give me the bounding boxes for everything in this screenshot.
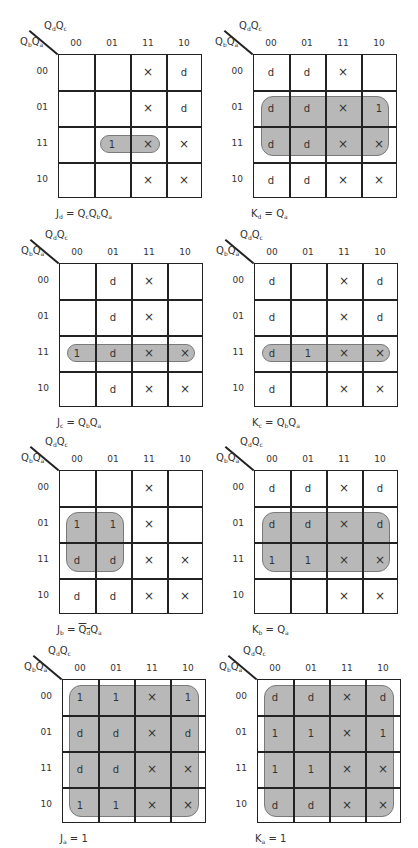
column-header: 11 — [134, 663, 170, 673]
row-header: 01 — [220, 311, 244, 321]
kmap-cell: 1 — [290, 542, 326, 578]
var-letter: Q — [57, 229, 65, 240]
kmap-cell: × — [325, 162, 361, 198]
var-subscript: c — [65, 234, 68, 241]
kmap-cell — [290, 371, 326, 407]
kmap-cell: d — [293, 679, 329, 715]
column-header: 00 — [253, 38, 289, 48]
kmap-cell: × — [134, 679, 170, 715]
var-letter: Q — [231, 661, 239, 672]
var-letter: Q — [60, 645, 68, 656]
term-letter: Q — [288, 417, 296, 428]
row-header: 00 — [220, 275, 244, 285]
row-header: 00 — [28, 691, 52, 701]
kmap-cell: d — [62, 751, 98, 787]
kmap-cell: d — [289, 162, 325, 198]
term-letter: Q — [277, 417, 285, 428]
kmap-cell: × — [326, 299, 362, 335]
kmap-cell — [290, 299, 326, 335]
kmap-cell — [290, 578, 326, 614]
kmap-cell: × — [134, 715, 170, 751]
kmap-cell: d — [253, 54, 289, 90]
column-header: 10 — [362, 454, 398, 464]
kmap-cell: × — [167, 371, 203, 407]
column-header: 11 — [131, 247, 167, 257]
row-header: 10 — [219, 174, 243, 184]
kmap-cell: d — [254, 299, 290, 335]
var-letter: Q — [216, 452, 224, 463]
kmap-cell: × — [131, 578, 167, 614]
kmap-cell: d — [95, 371, 131, 407]
var-letter: Q — [240, 436, 248, 447]
kmap-cell: × — [170, 787, 206, 823]
kmap-cell — [59, 470, 95, 506]
equation-lhs-subscript: c — [259, 422, 262, 429]
kmap-cell: 1 — [257, 751, 293, 787]
kmap-cell: d — [362, 299, 398, 335]
row-variables-label: QbQa — [219, 661, 242, 673]
kmap-cell: × — [362, 335, 398, 371]
kmap-cell: d — [289, 126, 325, 162]
kmap-cell: 1 — [59, 506, 95, 542]
kmap-cell — [361, 54, 397, 90]
column-variables-label: QdQc — [239, 20, 262, 32]
kmap-cell: × — [329, 751, 365, 787]
kmap-cell: × — [131, 542, 167, 578]
kmap-cell: d — [59, 542, 95, 578]
var-letter: Q — [228, 452, 236, 463]
column-header: 01 — [290, 247, 326, 257]
kmap-ka: QdQcQbQa0001111000011110dd×d11×111××dd××… — [0, 0, 200, 200]
term-subscript: a — [98, 422, 102, 429]
term-letter: 1 — [81, 833, 87, 844]
kmap-cell: d — [98, 751, 134, 787]
var-subscript: c — [68, 650, 71, 657]
kmap-cell: d — [289, 54, 325, 90]
kmap-cell — [167, 263, 203, 299]
kmap-cell — [290, 263, 326, 299]
equation-term: Qb — [78, 417, 90, 428]
term-letter: Q — [90, 624, 98, 635]
var-letter: Q — [21, 245, 29, 256]
equation-term: Qc — [78, 208, 89, 219]
term-letter: Q — [90, 417, 98, 428]
var-subscript: c — [263, 650, 266, 657]
var-letter: Q — [45, 229, 53, 240]
kmap-cell: d — [293, 787, 329, 823]
row-header: 11 — [28, 763, 52, 773]
kmap-cell: × — [131, 263, 167, 299]
equation-lhs-subscript: b — [60, 629, 64, 636]
kmap-cell: 1 — [254, 542, 290, 578]
equation-term: Qa — [90, 624, 102, 635]
kmap-cell: 1 — [293, 751, 329, 787]
var-letter: Q — [240, 229, 248, 240]
var-letter: Q — [45, 436, 53, 447]
column-header: 11 — [326, 247, 362, 257]
equation-label: Kc = QbQa — [252, 417, 300, 429]
kmap-cell: × — [329, 787, 365, 823]
kmap-cell: 1 — [361, 90, 397, 126]
equation-term: 1 — [81, 833, 87, 844]
equation-term: Qb — [89, 208, 101, 219]
kmap-cell: d — [95, 578, 131, 614]
var-letter: Q — [219, 661, 227, 672]
term-letter: Q — [276, 208, 284, 219]
kmap-cell: × — [167, 542, 203, 578]
equation-lhs-subscript: c — [60, 422, 63, 429]
column-variables-label: QdQc — [243, 645, 266, 657]
kmap-cell: d — [290, 470, 326, 506]
kmap-cell: × — [326, 335, 362, 371]
kmap-cell: d — [95, 263, 131, 299]
equation-label: Jb = QdQa — [57, 624, 102, 636]
kmap-cell: × — [362, 578, 398, 614]
column-header: 00 — [254, 454, 290, 464]
var-letter: Q — [57, 436, 65, 447]
equation-label: Kd = Qa — [251, 208, 288, 220]
kmap-cell: × — [326, 470, 362, 506]
kmap-cell: × — [131, 335, 167, 371]
kmap-cell — [59, 299, 95, 335]
kmap-cell: d — [95, 542, 131, 578]
kmap-cell: d — [362, 470, 398, 506]
equation-lhs-subscript: b — [259, 629, 263, 636]
var-subscript: c — [260, 441, 263, 448]
kmap-cell — [167, 506, 203, 542]
